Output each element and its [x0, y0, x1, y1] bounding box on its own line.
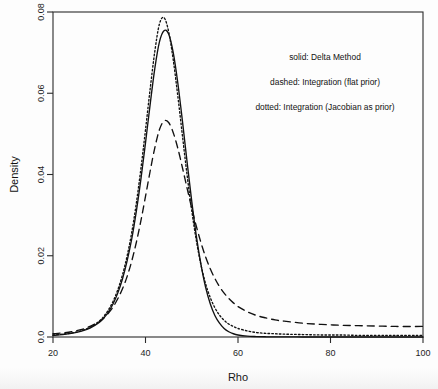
y-tick-label-0.08: 0.08 — [36, 3, 46, 21]
x-tick-label-80: 80 — [325, 348, 335, 358]
y-tick-label-0.04: 0.04 — [36, 166, 46, 184]
chart-container: 204060801000.00.020.040.060.08RhoDensity… — [0, 0, 438, 389]
y-tick-label-0.02: 0.02 — [36, 247, 46, 265]
legend-entry-0: solid: Delta Method — [289, 52, 361, 62]
x-tick-label-60: 60 — [233, 348, 243, 358]
x-tick-label-20: 20 — [48, 348, 58, 358]
y-axis-title: Density — [8, 156, 20, 193]
plot-frame — [53, 12, 423, 337]
x-tick-label-100: 100 — [415, 348, 430, 358]
curve-dotted — [53, 17, 423, 335]
scan-artifact — [0, 368, 438, 389]
legend-entry-1: dashed: Integration (flat prior) — [270, 77, 380, 87]
y-tick-label-0.0: 0.0 — [36, 331, 46, 344]
y-tick-label-0.06: 0.06 — [36, 84, 46, 102]
legend-entry-2: dotted: Integration (Jacobian as prior) — [255, 102, 394, 112]
x-tick-label-40: 40 — [140, 348, 150, 358]
curve-dashed — [53, 120, 423, 333]
density-plot: 204060801000.00.020.040.060.08RhoDensity… — [0, 0, 438, 389]
